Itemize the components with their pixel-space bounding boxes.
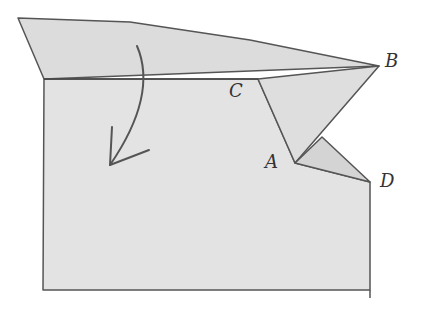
label-C: C: [229, 82, 243, 100]
top-flap: [18, 18, 379, 79]
diagram-canvas: [0, 0, 424, 315]
label-A: A: [265, 153, 278, 171]
label-D: D: [380, 172, 394, 190]
label-B: B: [385, 52, 398, 70]
folding-diagram: C B A D: [0, 0, 424, 315]
